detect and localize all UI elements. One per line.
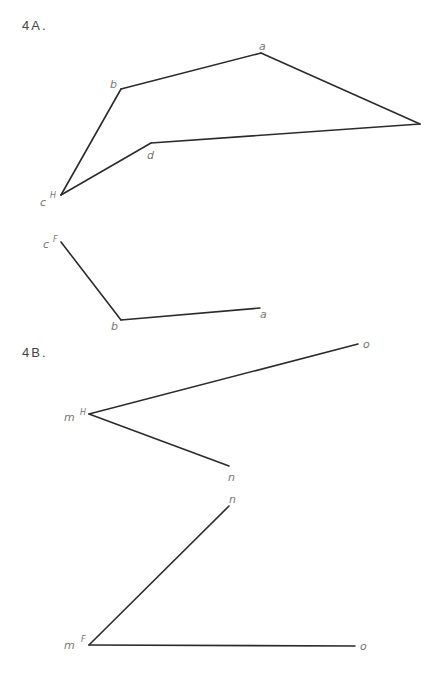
- figure-4a-title: 4A.: [22, 18, 48, 33]
- fig4a-f-label-c-superscript: F: [53, 235, 58, 244]
- fig4a-h-label-a: a: [259, 40, 266, 53]
- fig4a-f-segment-ba: [121, 308, 260, 320]
- figure-4a-frontal-view: cFba: [43, 235, 267, 333]
- fig4b-h-label-m-superscript: H: [80, 408, 86, 417]
- fig4b-h-label-n: n: [228, 471, 235, 484]
- fig4b-f-label-m-superscript: F: [81, 635, 86, 644]
- fig4b-h-segment-mo: [89, 344, 358, 414]
- fig4a-f-label-c: c: [43, 238, 49, 251]
- fig4b-f-label-m: m: [64, 639, 75, 652]
- fig4a-f-label-a: a: [260, 308, 267, 321]
- fig4a-h-label-b: b: [110, 78, 117, 91]
- fig4a-f-label-b: b: [111, 320, 118, 333]
- fig4b-h-segment-mn: [89, 414, 229, 466]
- descriptive-geometry-figure: 4A. abcHd cFba 4B. mHon mFno: [0, 0, 442, 674]
- fig4b-f-segment-mn: [89, 506, 229, 645]
- fig4b-f-label-o: o: [360, 640, 367, 653]
- fig4b-h-label-o: o: [363, 338, 370, 351]
- fig4a-h-label-c-superscript: H: [50, 191, 56, 200]
- figure-4a-horizontal-view: abcHd: [40, 40, 420, 209]
- fig4a-h-segment-ae: [261, 53, 420, 124]
- fig4b-h-label-m: m: [64, 411, 75, 424]
- fig4a-h-label-c: c: [40, 196, 46, 209]
- fig4a-h-segment-ed: [151, 124, 420, 143]
- fig4a-h-label-d: d: [147, 149, 155, 162]
- fig4b-f-label-n: n: [229, 493, 236, 506]
- fig4a-h-segment-cb: [61, 89, 121, 195]
- fig4a-h-segment-ba: [121, 53, 261, 89]
- fig4b-f-segment-mo: [89, 645, 355, 646]
- fig4a-f-segment-cb: [61, 242, 121, 320]
- figure-4b-title: 4B.: [22, 345, 48, 360]
- figure-4b-horizontal-view: mHon: [64, 338, 370, 484]
- fig4a-h-segment-dc: [61, 143, 151, 195]
- figure-4b-frontal-view: mFno: [64, 493, 367, 653]
